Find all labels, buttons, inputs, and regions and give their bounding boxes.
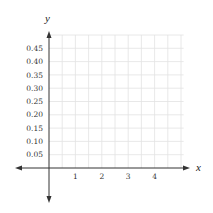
y-tick-labels: 0.050.100.150.200.250.300.350.400.45 xyxy=(26,44,43,159)
y-tick-label: 0.20 xyxy=(26,110,43,119)
x-axis-left-arrow-icon xyxy=(15,166,22,171)
y-tick-label: 0.30 xyxy=(26,84,43,93)
x-axis-label: x xyxy=(195,161,201,173)
x-tick-label: 3 xyxy=(126,172,131,181)
y-tick-label: 0.15 xyxy=(26,124,43,133)
x-axis-right-arrow-icon xyxy=(183,166,190,171)
y-tick-label: 0.40 xyxy=(26,57,43,66)
y-tick-label: 0.25 xyxy=(26,97,43,106)
y-axis-label: y xyxy=(44,12,50,24)
y-axis-down-arrow-icon xyxy=(47,196,52,203)
y-tick-label: 0.05 xyxy=(26,150,43,159)
x-tick-labels: 1234 xyxy=(73,172,157,181)
coordinate-plane-chart: 0.050.100.150.200.250.300.350.400.45 123… xyxy=(0,0,213,213)
x-tick-label: 1 xyxy=(73,172,78,181)
y-tick-label: 0.10 xyxy=(26,137,43,146)
grid-lines xyxy=(49,35,184,168)
x-tick-label: 4 xyxy=(152,172,157,181)
x-tick-label: 2 xyxy=(99,172,104,181)
y-axis-up-arrow-icon xyxy=(47,31,52,38)
y-tick-label: 0.45 xyxy=(26,44,43,53)
y-tick-label: 0.35 xyxy=(26,71,43,80)
